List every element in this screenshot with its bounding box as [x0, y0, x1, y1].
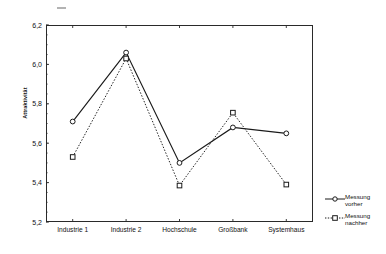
legend-label-messung-nachher: Messungnachher — [345, 212, 370, 227]
legend-swatch-dotted-square — [325, 213, 345, 223]
attraktivitaet-line-chart: Attraktivität 5,25,45,65,86,06,2 Industr… — [0, 0, 386, 254]
x-tick-label: Systemhaus — [254, 227, 318, 234]
legend-item-messung-nachher: Messungnachher — [325, 212, 386, 227]
data-markers — [70, 50, 288, 188]
legend-item-messung-vorher: Messungvorher — [325, 193, 386, 208]
axis-tick-marks — [46, 25, 286, 222]
legend-swatch-solid-circle — [325, 194, 345, 204]
legend-label-messung-vorher: Messungvorher — [345, 193, 370, 208]
chart-legend: Messungvorher Messungnachher — [325, 193, 386, 231]
